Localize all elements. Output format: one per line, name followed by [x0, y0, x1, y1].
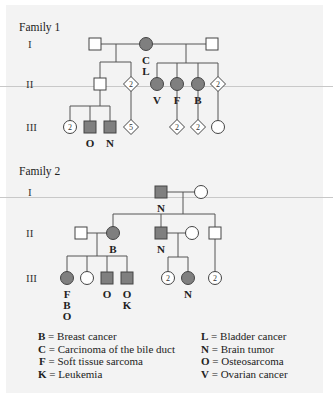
individual-male [94, 78, 106, 90]
unaffected-male-square [209, 227, 221, 239]
individual-male [89, 38, 101, 50]
sibling-count: 2 [216, 80, 220, 89]
legend-right: L = Bladder cancer N = Brain tumor O = O… [201, 330, 288, 380]
individual-unknown: 2 [124, 77, 139, 92]
cancer-code-label: O [63, 310, 72, 322]
legend-code: L [201, 330, 208, 342]
affected-female-circle [182, 272, 195, 285]
legend-item: C = Carcinoma of the bile duct [38, 343, 175, 356]
legend-meaning: Breast cancer [57, 330, 117, 342]
family-1-generation-II: II [26, 78, 34, 90]
family-2-title: Family 2 [19, 165, 60, 178]
cancer-code-label: O [86, 137, 95, 149]
sibling-count: 2 [68, 123, 72, 132]
individual-female: FBO [61, 272, 74, 323]
family-2-generation-I: I [28, 186, 32, 198]
legend-meaning: Bladder cancer [220, 330, 286, 342]
affected-male-square [155, 227, 167, 239]
legend-code: B [38, 330, 45, 342]
sibling-count: 2 [196, 123, 200, 132]
sibling-count: 2 [129, 80, 133, 89]
legend-code: F [39, 355, 46, 367]
cancer-code-label: K [123, 299, 132, 311]
legend-item: K = Leukemia [38, 368, 175, 381]
individual-male: N [155, 186, 167, 214]
legend-meaning: Leukemia [58, 368, 102, 380]
unaffected-female-circle [186, 227, 199, 240]
individual-female [186, 227, 199, 240]
legend-meaning: Ovarian cancer [221, 368, 288, 380]
individual-female: N [182, 272, 195, 301]
legend-meaning: Carcinoma of the bile duct [58, 343, 175, 355]
individual-female: V [151, 78, 164, 107]
affected-male-square [155, 186, 167, 198]
cancer-code-label: O [103, 288, 112, 300]
individual-male [75, 227, 87, 239]
individual-unknown: 2 [191, 120, 206, 135]
legend-item: F = Soft tissue sarcoma [38, 355, 175, 368]
legend-item: V = Ovarian cancer [201, 368, 288, 381]
cancer-code-label: L [142, 65, 149, 77]
individual-female: 2 [162, 272, 175, 285]
affected-female-circle [61, 272, 74, 285]
individual-female: 2 [64, 121, 77, 134]
individual-male: O [101, 272, 113, 300]
family-2-generation-III: III [26, 272, 37, 284]
affected-male-square [84, 121, 96, 133]
legend-meaning: Brain tumor [221, 343, 274, 355]
legend-left: B = Breast cancer C = Carcinoma of the b… [38, 330, 175, 380]
legend-item: O = Osteosarcoma [201, 355, 288, 368]
sibling-count: 5 [129, 123, 133, 132]
legend-meaning: Soft tissue sarcoma [57, 355, 143, 367]
affected-female-circle [192, 78, 205, 91]
cancer-code-label: V [153, 94, 161, 106]
affected-male-square [121, 272, 133, 284]
individual-female: B [107, 227, 120, 256]
affected-female-circle [151, 78, 164, 91]
individual-female: CL [140, 38, 153, 78]
family-1-title: Family 1 [19, 21, 60, 34]
individual-unknown: 5 [124, 120, 139, 135]
affected-female-circle [107, 227, 120, 240]
individual-female [195, 186, 208, 199]
family-2-generation-II: II [26, 227, 34, 239]
individuals: CL2VFB22ON522NBNFBOOOK2N2 [61, 38, 226, 323]
individual-female [212, 121, 225, 134]
sibling-count: 2 [166, 274, 170, 283]
unaffected-male-square [206, 38, 218, 50]
unaffected-female-circle [195, 186, 208, 199]
unaffected-female-circle [81, 272, 94, 285]
affected-female-circle [140, 38, 153, 51]
individual-female [81, 272, 94, 285]
unaffected-male-square [75, 227, 87, 239]
individual-male [209, 227, 221, 239]
individual-male [206, 38, 218, 50]
individual-male: N [155, 227, 167, 255]
individual-unknown: 2 [170, 120, 185, 135]
cancer-code-label: B [194, 94, 202, 106]
legend-code: C [38, 343, 46, 355]
cancer-code-label: N [106, 137, 114, 149]
legend-item: L = Bladder cancer [201, 330, 288, 343]
individual-unknown: 2 [211, 77, 226, 92]
legend-item: N = Brain tumor [201, 343, 288, 356]
individual-male: OK [121, 272, 133, 311]
unaffected-female-circle [212, 121, 225, 134]
legend-code: V [201, 368, 209, 380]
legend-code: K [38, 368, 47, 380]
cancer-code-label: F [174, 94, 181, 106]
affected-male-square [101, 272, 113, 284]
family-1-generation-I: I [28, 38, 32, 50]
individual-male: O [84, 121, 96, 149]
legend-code: N [201, 343, 209, 355]
unaffected-male-square [94, 78, 106, 90]
legend-meaning: Osteosarcoma [221, 355, 283, 367]
legend-code: O [201, 355, 210, 367]
individual-female: 2 [209, 272, 222, 285]
legend-item: B = Breast cancer [38, 330, 175, 343]
affected-female-circle [171, 78, 184, 91]
sibling-count: 2 [213, 274, 217, 283]
cancer-code-label: B [109, 243, 117, 255]
affected-male-square [104, 121, 116, 133]
cancer-code-label: N [184, 288, 192, 300]
